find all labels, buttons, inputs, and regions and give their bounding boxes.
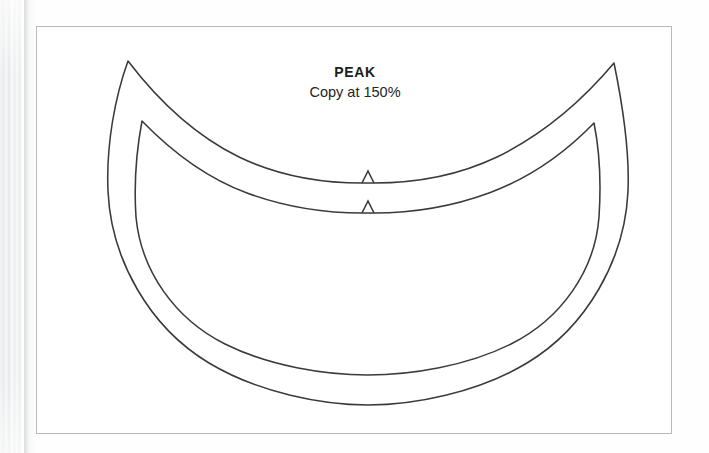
book-gutter-shadow (24, 0, 36, 453)
outer-centre-notch-icon (362, 171, 374, 183)
pattern-instruction-label: Copy at 150% (37, 84, 673, 100)
scanned-page: PEAK Copy at 150% (0, 0, 709, 453)
inner-peak-piece (135, 121, 600, 375)
outer-peak-outline (108, 61, 629, 405)
inner-centre-notch-icon (362, 201, 374, 213)
page-title: PEAK (37, 64, 673, 80)
pattern-frame: PEAK Copy at 150% (36, 26, 672, 434)
book-page-edge (0, 0, 26, 453)
inner-peak-outline (135, 121, 600, 375)
outer-peak-piece (108, 61, 629, 405)
